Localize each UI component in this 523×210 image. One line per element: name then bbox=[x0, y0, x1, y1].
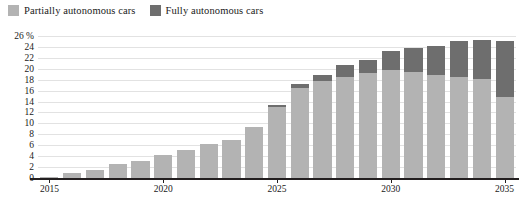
bar-segment-fully bbox=[496, 41, 514, 97]
y-axis-tick-label: 14 bbox=[0, 97, 34, 107]
plot-area bbox=[38, 36, 516, 178]
bar-segment-partially bbox=[336, 77, 354, 178]
y-axis-tick-label: 24 bbox=[0, 42, 34, 52]
bar-segment-partially bbox=[268, 107, 286, 178]
y-axis-tick-label: 6 bbox=[0, 140, 34, 150]
bar-2028[interactable] bbox=[336, 65, 354, 178]
x-axis-tick-label: 2030 bbox=[381, 184, 400, 195]
y-axis-tick-label: 20 bbox=[0, 64, 34, 74]
bar-2033[interactable] bbox=[450, 41, 468, 178]
bar-segment-partially bbox=[313, 81, 331, 178]
bar-segment-partially bbox=[86, 170, 104, 178]
bar-2029[interactable] bbox=[359, 60, 377, 178]
bar-segment-partially bbox=[382, 70, 400, 178]
bar-segment-partially bbox=[200, 144, 218, 178]
bar-2020[interactable] bbox=[154, 155, 172, 178]
bar-2022[interactable] bbox=[200, 144, 218, 178]
bar-segment-fully bbox=[359, 60, 377, 73]
bar-segment-fully bbox=[404, 48, 422, 72]
bar-segment-partially bbox=[245, 127, 263, 178]
bar-segment-partially bbox=[154, 155, 172, 178]
x-axis-line bbox=[30, 178, 519, 180]
bar-2030[interactable] bbox=[382, 51, 400, 178]
x-axis-tick bbox=[277, 178, 278, 183]
y-axis-tick-label: 4 bbox=[0, 151, 34, 161]
y-axis-tick-label: 22 bbox=[0, 53, 34, 63]
x-axis-tick bbox=[49, 178, 50, 183]
bar-2017[interactable] bbox=[86, 170, 104, 178]
x-axis-tick-label: 2035 bbox=[495, 184, 514, 195]
bar-segment-partially bbox=[404, 72, 422, 178]
bar-2035[interactable] bbox=[496, 41, 514, 178]
bar-2034[interactable] bbox=[473, 40, 491, 178]
bar-segment-partially bbox=[177, 150, 195, 178]
y-axis-tick-label: 26 % bbox=[0, 31, 34, 41]
stacked-bar-chart: 26 %242220181614121086420 20152020202520… bbox=[0, 0, 523, 210]
bar-2021[interactable] bbox=[177, 150, 195, 178]
y-axis-tick-label: 12 bbox=[0, 107, 34, 117]
bar-segment-partially bbox=[359, 73, 377, 178]
bar-segment-partially bbox=[109, 164, 127, 178]
bar-segment-fully bbox=[427, 46, 445, 75]
x-axis-tick-label: 2015 bbox=[40, 184, 59, 195]
y-axis-labels: 26 %242220181614121086420 bbox=[0, 30, 34, 184]
bar-segment-fully bbox=[382, 51, 400, 70]
bar-segment-fully bbox=[473, 40, 491, 78]
x-axis-tick-label: 2025 bbox=[268, 184, 287, 195]
bar-2018[interactable] bbox=[109, 164, 127, 178]
bar-2031[interactable] bbox=[404, 48, 422, 178]
y-axis-tick-label: 0 bbox=[0, 173, 34, 183]
y-axis-tick-label: 10 bbox=[0, 118, 34, 128]
bar-segment-partially bbox=[427, 75, 445, 178]
bar-segment-partially bbox=[222, 140, 240, 178]
y-axis-tick-label: 2 bbox=[0, 162, 34, 172]
bar-2027[interactable] bbox=[313, 75, 331, 178]
bar-segment-partially bbox=[291, 88, 309, 178]
y-axis-tick-label: 16 bbox=[0, 86, 34, 96]
x-axis-tick bbox=[163, 178, 164, 183]
bar-2019[interactable] bbox=[131, 161, 149, 178]
bar-segment-fully bbox=[450, 41, 468, 76]
bar-2026[interactable] bbox=[291, 84, 309, 178]
bar-segment-partially bbox=[450, 77, 468, 178]
bar-group bbox=[38, 36, 516, 178]
bar-2025[interactable] bbox=[268, 105, 286, 178]
bar-segment-partially bbox=[131, 161, 149, 178]
x-axis-tick-label: 2020 bbox=[154, 184, 173, 195]
bar-2032[interactable] bbox=[427, 46, 445, 178]
bar-2024[interactable] bbox=[245, 127, 263, 178]
x-axis-tick bbox=[391, 178, 392, 183]
bar-segment-partially bbox=[496, 97, 514, 178]
y-axis-tick-label: 18 bbox=[0, 75, 34, 85]
bar-segment-fully bbox=[336, 65, 354, 77]
x-axis-tick bbox=[505, 178, 506, 183]
bar-segment-partially bbox=[473, 79, 491, 178]
y-axis-tick-label: 8 bbox=[0, 129, 34, 139]
bar-2023[interactable] bbox=[222, 140, 240, 178]
